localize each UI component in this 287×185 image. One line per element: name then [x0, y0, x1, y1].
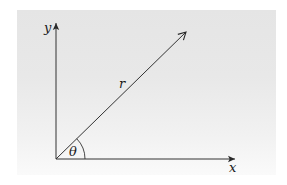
- angle-arc: [77, 139, 85, 159]
- vector-r: [56, 32, 186, 159]
- x-axis-label: x: [229, 160, 237, 175]
- vector-label: r: [119, 76, 126, 91]
- angle-label: θ: [69, 144, 77, 159]
- y-axis-label: y: [43, 20, 52, 35]
- polar-coordinate-diagram: y x r θ: [0, 0, 287, 185]
